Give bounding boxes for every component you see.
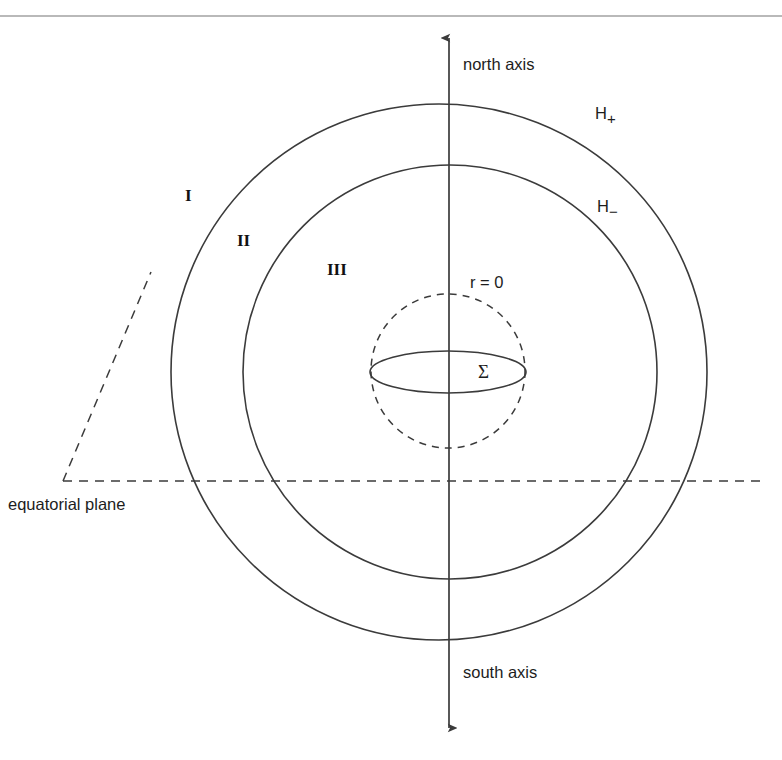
h-minus-subscript: −	[609, 203, 618, 220]
region-three-label: III	[327, 260, 347, 279]
equatorial-plane-label: equatorial plane	[8, 495, 125, 513]
kerr-horizons-diagram: north axis south axis equatorial plane H…	[0, 0, 782, 760]
r-zero-dashed-circle	[371, 294, 525, 448]
north-axis-label: north axis	[463, 55, 535, 73]
outer-horizon-circle	[171, 104, 707, 640]
region-two-label: II	[237, 231, 251, 250]
h-minus-base: H	[597, 197, 609, 215]
equatorial-plane-perspective-line	[63, 272, 151, 481]
h-plus-subscript: +	[607, 110, 616, 127]
sigma-label: Σ	[478, 361, 489, 382]
inner-horizon-circle	[243, 165, 657, 579]
sigma-disk-ellipse	[370, 351, 526, 393]
h-minus-label: H−	[597, 197, 618, 220]
h-plus-base: H	[595, 104, 607, 122]
figure-page: north axis south axis equatorial plane H…	[0, 0, 782, 760]
h-plus-label: H+	[595, 104, 616, 127]
r-zero-label: r = 0	[470, 273, 503, 291]
region-one-label: I	[185, 186, 192, 205]
south-axis-label: south axis	[463, 663, 537, 681]
